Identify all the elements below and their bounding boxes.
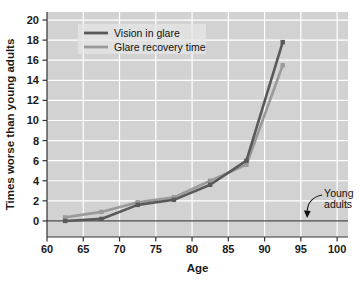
y-tick-label: 6	[33, 155, 39, 167]
x-tick-label: 65	[77, 243, 89, 255]
y-tick-label: 10	[27, 114, 39, 126]
y-tick-label: 16	[27, 54, 39, 66]
x-tick-label: 85	[222, 243, 234, 255]
x-tick-label: 70	[113, 243, 125, 255]
chart-figure: 6065707580859095100 02468101214161820 Vi…	[0, 0, 359, 285]
data-point-marker	[99, 217, 103, 221]
x-tick-label: 60	[41, 243, 53, 255]
y-tick-label: 14	[27, 74, 40, 86]
annotation-line-2: adults	[324, 198, 352, 210]
data-point-marker	[99, 210, 103, 214]
data-point-marker	[281, 40, 285, 44]
data-point-marker	[135, 203, 139, 207]
legend-label-1: Glare recovery time	[114, 41, 206, 53]
data-point-marker	[244, 158, 248, 162]
y-tick-label: 20	[27, 14, 39, 26]
data-point-marker	[281, 63, 285, 67]
x-tick-label: 100	[328, 243, 346, 255]
y-tick-label: 12	[27, 94, 39, 106]
y-tick-label: 0	[33, 215, 39, 227]
line-chart: 6065707580859095100 02468101214161820 Vi…	[0, 0, 359, 285]
x-tick-label: 75	[150, 243, 162, 255]
x-axis-title: Age	[187, 262, 209, 274]
data-point-marker	[172, 198, 176, 202]
x-tick-label: 80	[186, 243, 198, 255]
data-point-marker	[63, 219, 67, 223]
y-tick-label: 8	[33, 135, 39, 147]
x-axis-tick-labels: 6065707580859095100	[41, 243, 346, 255]
y-tick-label: 18	[27, 34, 39, 46]
y-tick-label: 2	[33, 195, 39, 207]
y-axis-title: Times worse than young adults	[4, 39, 16, 211]
y-tick-label: 4	[33, 175, 40, 187]
legend-label-0: Vision in glare	[114, 27, 180, 39]
data-point-marker	[208, 183, 212, 187]
x-tick-label: 90	[258, 243, 270, 255]
chart-legend: Vision in glareGlare recovery time	[78, 24, 206, 54]
annotation-line-1: Young	[324, 187, 354, 199]
x-tick-label: 95	[295, 243, 307, 255]
